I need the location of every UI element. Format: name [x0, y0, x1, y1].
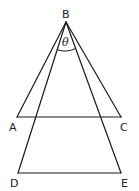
label-b: B: [62, 8, 70, 21]
label-theta: θ: [62, 36, 69, 49]
segment-ba: [17, 22, 66, 117]
geometry-diagram: B A C D E θ: [0, 0, 139, 191]
segment-bc: [66, 22, 121, 117]
segment-be: [66, 22, 121, 173]
label-a: A: [9, 121, 17, 134]
label-d: D: [10, 177, 18, 190]
segment-bd: [18, 22, 66, 173]
label-e: E: [121, 177, 128, 190]
label-c: C: [120, 121, 128, 134]
